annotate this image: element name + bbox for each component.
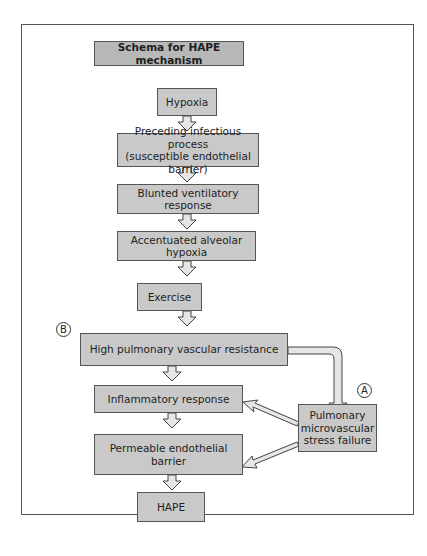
node-permeable-line1: Permeable endothelial: [110, 442, 228, 455]
node-high-pulmonary-vascular-resistance: High pulmonary vascular resistance: [80, 333, 288, 366]
arrow-stress-to-permeable: [242, 442, 299, 468]
node-permeable-line2: barrier: [151, 455, 186, 468]
arrow-permeable-to-hape: [163, 475, 181, 490]
node-stress-line1: Pulmonary: [310, 409, 366, 422]
node-pulmonary-microvascular-stress-failure: Pulmonary microvascular stress failure: [298, 404, 377, 452]
marker-a: A: [357, 383, 372, 398]
node-exercise: Exercise: [137, 283, 202, 311]
arrow-exercise-to-high-pvr: [178, 311, 196, 326]
node-blunted-ventilatory-response: Blunted ventilatory response: [117, 184, 259, 214]
node-stress-line3: stress failure: [304, 434, 372, 447]
arrow-stress-to-inflammatory: [243, 400, 299, 426]
node-stress-line2: microvascular: [301, 422, 375, 435]
node-hypoxia: Hypoxia: [157, 88, 217, 116]
diagram-title: Schema for HAPE mechanism: [94, 41, 244, 66]
node-permeable-endothelial-barrier: Permeable endothelial barrier: [94, 434, 243, 475]
node-preceding-infectious-process: Preceding infectious process (susceptibl…: [117, 133, 259, 167]
arrow-blunted-to-accentuated: [178, 214, 196, 229]
node-inflammatory-response: Inflammatory response: [94, 385, 243, 413]
arrow-inflammatory-to-permeable: [163, 413, 181, 428]
node-hape: HAPE: [137, 492, 205, 522]
arrow-high-pvr-to-inflammatory: [163, 366, 181, 381]
arrow-accentuated-to-exercise: [178, 261, 196, 276]
marker-b: B: [56, 322, 71, 337]
node-infectious-line1: Preceding infectious process: [118, 125, 258, 150]
node-infectious-line2: (susceptible endothelial barrier): [118, 150, 258, 175]
node-accentuated-alveolar-hypoxia: Accentuated alveolar hypoxia: [117, 231, 256, 261]
